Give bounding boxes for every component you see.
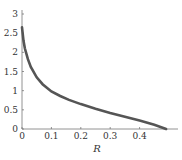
y-tick-label: 2.5	[4, 28, 19, 38]
x-tick-label: 0	[19, 131, 25, 141]
y-tick-label: 0	[12, 124, 18, 134]
x-tick-label: 0.4	[132, 131, 147, 141]
x-tick-label: 0.1	[44, 131, 58, 141]
x-axis-label: R	[92, 143, 101, 154]
data-line	[22, 27, 166, 129]
x-tick-label: 0.3	[103, 131, 118, 141]
x-tick-label: 0.2	[74, 131, 88, 141]
y-tick-label: 3	[12, 9, 18, 19]
y-tick-label: 1.5	[4, 67, 19, 77]
ticks: 00.511.522.5300.10.20.30.4	[4, 9, 147, 141]
line-chart: 00.511.522.5300.10.20.30.4 R	[0, 0, 182, 160]
y-tick-label: 1	[12, 86, 18, 96]
y-tick-label: 0.5	[4, 105, 19, 115]
y-tick-label: 2	[12, 47, 18, 57]
